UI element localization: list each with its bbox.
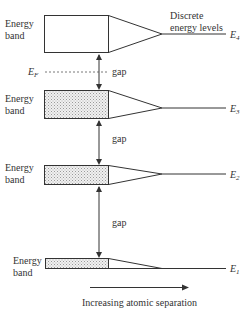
discrete-label-line1: Discrete (170, 10, 204, 21)
band-1: Energy band E1 (13, 255, 240, 278)
gap-3: gap (96, 186, 126, 258)
band-2-box (45, 166, 109, 185)
fermi-level-symbol: EF (27, 66, 39, 79)
discrete-label-line2: energy levels (170, 22, 223, 33)
gap-2-arrow-down-icon (96, 159, 102, 165)
gap-2-label: gap (112, 133, 126, 144)
gap-3-arrow-up-icon (96, 186, 102, 192)
band-4-label-line1: Energy (5, 18, 34, 29)
band-2: Energy band E2 (5, 162, 240, 185)
band-4: Energy band Discrete energy levels E4 (5, 10, 240, 53)
band-3-box (45, 91, 109, 119)
band-4-box (45, 16, 109, 53)
energy-band-diagram: Energy band Discrete energy levels E4 EF… (0, 0, 252, 313)
band-4-funnel (109, 16, 163, 53)
band-2-funnel (109, 166, 163, 185)
x-axis: Increasing atomic separation (82, 285, 197, 309)
gap-1: EF gap (27, 54, 126, 90)
band-2-label-line1: Energy (5, 162, 34, 173)
level-e3-symbol: E3 (229, 103, 240, 116)
level-e4-symbol: E4 (229, 29, 240, 42)
band-2-label-line2: band (5, 174, 24, 185)
gap-3-arrow-down-icon (96, 252, 102, 258)
gap-1-arrow-up-icon (96, 54, 102, 60)
level-e2-symbol: E2 (229, 169, 240, 182)
band-1-label-line2: band (13, 267, 32, 278)
band-4-label-line2: band (5, 30, 24, 41)
band-1-label-line1: Energy (13, 255, 42, 266)
x-axis-arrowhead-icon (182, 285, 189, 291)
gap-2: gap (96, 120, 126, 165)
x-axis-label: Increasing atomic separation (82, 297, 197, 308)
band-1-box (46, 259, 109, 269)
gap-1-label: gap (112, 66, 126, 77)
band-1-funnel (109, 259, 163, 269)
band-3-funnel (109, 91, 163, 119)
level-e1-symbol: E1 (229, 263, 240, 276)
band-3-label-line2: band (5, 105, 24, 116)
gap-1-arrow-down-icon (96, 84, 102, 90)
gap-3-label: gap (112, 217, 126, 228)
band-3-label-line1: Energy (5, 93, 34, 104)
gap-2-arrow-up-icon (96, 120, 102, 126)
band-3: Energy band E3 (5, 91, 240, 119)
